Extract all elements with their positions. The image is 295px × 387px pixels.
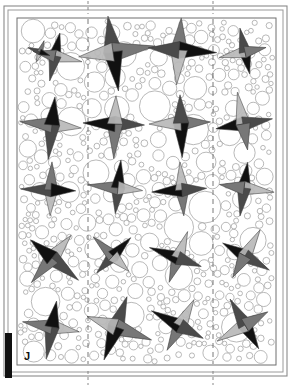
packed-circle <box>156 331 160 335</box>
packed-circle <box>269 276 274 281</box>
packed-circle <box>86 27 97 38</box>
packed-circle <box>128 157 136 165</box>
packed-circle <box>94 233 99 238</box>
packed-circle <box>146 314 152 320</box>
packed-circle <box>242 340 250 348</box>
packed-circle <box>60 312 68 320</box>
packed-circle <box>256 198 262 204</box>
packed-circle <box>215 291 224 300</box>
packed-circle <box>228 26 239 37</box>
packed-circle <box>201 140 209 148</box>
packed-circle <box>192 340 197 345</box>
packed-circle <box>258 214 264 220</box>
packed-circle <box>74 235 84 245</box>
packed-circle <box>255 277 260 282</box>
packed-circle <box>39 141 45 147</box>
packed-circle <box>35 101 40 106</box>
packed-circle <box>206 296 210 300</box>
packed-circle <box>148 288 156 296</box>
packed-circle <box>65 202 71 208</box>
packed-circle <box>186 343 192 349</box>
packed-circle <box>19 48 25 54</box>
packed-circle <box>106 275 119 288</box>
packed-circle <box>57 152 62 157</box>
packed-circle <box>234 142 255 163</box>
packed-circle <box>122 86 128 92</box>
packed-circle <box>209 147 215 153</box>
packed-circle <box>251 79 256 84</box>
packed-circle <box>20 271 35 286</box>
packed-circle <box>82 288 88 294</box>
packed-circle <box>164 213 193 242</box>
packed-circle <box>133 137 139 143</box>
packed-circle <box>161 304 166 309</box>
packed-circle <box>25 89 31 95</box>
packed-circle <box>109 223 122 236</box>
packed-circle <box>157 293 164 300</box>
packed-circle <box>198 309 208 319</box>
packed-circle <box>134 144 138 148</box>
packed-circle <box>185 71 190 76</box>
packed-circle <box>160 243 164 247</box>
packed-circle <box>236 59 242 65</box>
packed-circle <box>227 212 232 217</box>
packed-circle <box>135 234 141 240</box>
packed-circle <box>257 208 263 214</box>
packed-circle <box>25 223 30 228</box>
packed-circle <box>214 324 219 329</box>
packed-circle <box>75 30 83 38</box>
packed-circle <box>117 287 122 292</box>
packed-circle <box>35 226 48 239</box>
packed-circle <box>100 91 109 100</box>
packed-circle <box>22 339 28 345</box>
packed-circle <box>220 308 228 316</box>
packed-circle <box>206 331 210 335</box>
packed-circle <box>55 343 62 350</box>
packed-circle <box>196 341 202 347</box>
packed-circle <box>157 224 162 229</box>
packed-circle <box>126 89 139 102</box>
packed-circle <box>58 354 63 359</box>
packed-circle <box>140 24 145 29</box>
packed-circle <box>218 167 226 175</box>
packed-circle <box>206 74 213 81</box>
packed-circle <box>213 311 217 315</box>
packed-circle <box>61 287 74 300</box>
packed-circle <box>162 172 167 177</box>
packed-circle <box>182 163 187 168</box>
packed-circle <box>214 270 221 277</box>
packed-circle <box>139 91 170 122</box>
packed-circle <box>266 112 271 117</box>
packed-circle <box>197 21 202 26</box>
packed-circle <box>96 210 102 216</box>
packed-circle <box>226 344 235 353</box>
packed-circle <box>197 325 202 330</box>
packed-circle <box>254 283 264 293</box>
packed-circle <box>55 208 61 214</box>
packed-circle <box>146 21 155 30</box>
packed-circle <box>238 65 245 72</box>
packed-circle <box>225 258 230 263</box>
packed-circle <box>72 302 81 311</box>
packed-circle <box>164 355 170 361</box>
packed-circle <box>135 25 140 30</box>
packed-circle <box>216 333 221 338</box>
packed-circle <box>226 170 236 180</box>
packed-circle <box>69 319 78 328</box>
packed-circle <box>223 353 231 361</box>
packed-circle <box>256 38 262 44</box>
packed-circle <box>56 287 61 292</box>
packed-circle <box>21 19 45 43</box>
packed-circle <box>129 341 138 350</box>
packed-circle <box>264 282 271 289</box>
packed-circle <box>19 161 28 170</box>
packed-circle <box>120 138 128 146</box>
packed-circle <box>124 22 132 30</box>
packed-circle <box>50 270 62 282</box>
packed-circle <box>224 115 229 120</box>
packed-circle <box>56 199 61 204</box>
packed-circle <box>18 330 23 335</box>
packed-circle <box>267 150 271 154</box>
packed-circle <box>121 356 126 361</box>
packed-circle <box>34 96 39 101</box>
